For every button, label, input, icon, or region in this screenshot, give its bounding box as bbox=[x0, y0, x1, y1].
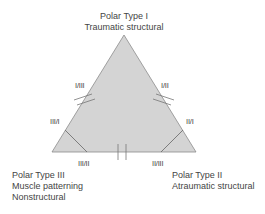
vertex-bottom-left-line2: Muscle patterning bbox=[12, 181, 83, 192]
edge-label-right-upper: I/II bbox=[161, 80, 169, 91]
triangle-shape bbox=[52, 35, 196, 152]
vertex-bottom-left-line3: Nonstructural bbox=[12, 192, 83, 203]
edge-label-bottom-right: II/III bbox=[152, 158, 163, 169]
vertex-bottom-right-subtitle: Atraumatic structural bbox=[172, 181, 255, 192]
edge-label-right-lower: II/I bbox=[186, 116, 194, 127]
vertex-bottom-left-label: Polar Type III Muscle patterning Nonstru… bbox=[12, 170, 83, 203]
vertex-bottom-right-label: Polar Type II Atraumatic structural bbox=[172, 170, 255, 192]
vertex-top-subtitle: Traumatic structural bbox=[74, 22, 174, 33]
edge-label-left-lower: III/I bbox=[50, 116, 59, 127]
vertex-top-title: Polar Type I bbox=[74, 11, 174, 22]
vertex-bottom-left-title: Polar Type III bbox=[12, 170, 83, 181]
vertex-top-label: Polar Type I Traumatic structural bbox=[74, 11, 174, 33]
edge-label-bottom-left: III/II bbox=[78, 158, 89, 169]
vertex-bottom-right-title: Polar Type II bbox=[172, 170, 255, 181]
edge-label-left-upper: I/III bbox=[75, 80, 84, 91]
